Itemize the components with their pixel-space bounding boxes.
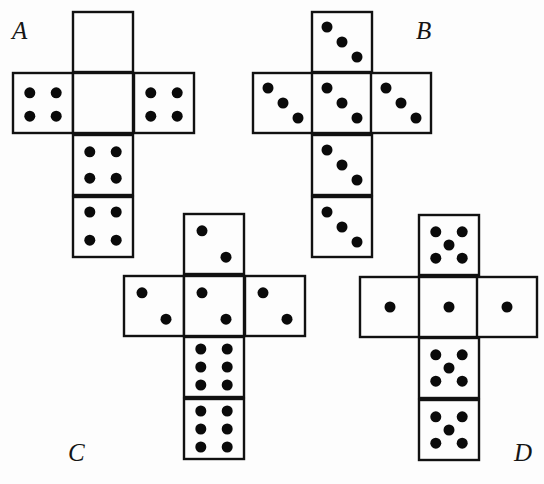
pip-dot xyxy=(258,287,269,298)
net-label-c: C xyxy=(68,440,85,465)
pip-dot xyxy=(51,87,62,98)
pip-dot xyxy=(444,363,455,374)
die-face-right xyxy=(477,277,537,337)
cube-net-b xyxy=(253,12,431,257)
pip-dot xyxy=(282,314,293,325)
pip-dot xyxy=(137,287,148,298)
pip-dot xyxy=(197,287,208,298)
pip-dot xyxy=(111,207,122,218)
die-face-bottom2 xyxy=(73,197,133,257)
pip-dot xyxy=(457,226,468,237)
pip-dot xyxy=(444,240,455,251)
pip-dot xyxy=(195,424,206,435)
pip-dot xyxy=(84,235,95,246)
pip-dot xyxy=(430,376,441,387)
pip-dot xyxy=(24,111,35,122)
pip-dot xyxy=(84,146,95,157)
pip-dot xyxy=(444,425,455,436)
pip-dot xyxy=(278,98,289,109)
pip-dot xyxy=(222,344,233,355)
pip-dot xyxy=(221,252,232,263)
pip-dot xyxy=(322,145,333,156)
die-face-right xyxy=(245,276,305,336)
pip-dot xyxy=(195,406,206,417)
pip-dot xyxy=(172,87,183,98)
pip-dot xyxy=(430,349,441,360)
die-face-top xyxy=(312,12,372,72)
pip-dot xyxy=(430,253,441,264)
pip-dot xyxy=(145,87,156,98)
die-face-center xyxy=(184,276,244,336)
pip-dot xyxy=(322,207,333,218)
pip-dot xyxy=(221,314,232,325)
pip-dot xyxy=(430,438,441,449)
pip-dot xyxy=(293,113,304,124)
die-face-right xyxy=(134,73,194,133)
pip-dot xyxy=(337,160,348,171)
cube-nets-figure: A B C D xyxy=(0,0,544,484)
pip-dot xyxy=(352,175,363,186)
die-face-left xyxy=(253,73,313,133)
pip-dot xyxy=(457,253,468,264)
die-face-bottom1 xyxy=(312,135,372,195)
pip-dot xyxy=(444,302,455,313)
die-face-bottom2 xyxy=(419,400,479,460)
pip-dot xyxy=(263,83,274,94)
pip-dot xyxy=(337,37,348,48)
pip-dot xyxy=(222,442,233,453)
pip-dot xyxy=(111,146,122,157)
pip-dot xyxy=(352,237,363,248)
pip-dot xyxy=(172,111,183,122)
pip-dot xyxy=(195,442,206,453)
pip-dot xyxy=(457,438,468,449)
die-face-bottom1 xyxy=(73,135,133,195)
die-face-left xyxy=(360,277,420,337)
pip-dot xyxy=(24,87,35,98)
pip-dot xyxy=(385,302,396,313)
cube-net-c xyxy=(124,214,305,459)
pip-dot xyxy=(222,424,233,435)
pip-dot xyxy=(502,302,513,313)
net-label-d: D xyxy=(514,440,532,465)
pip-dot xyxy=(222,406,233,417)
cube-net-d xyxy=(360,215,537,460)
pip-dot xyxy=(457,411,468,422)
pip-dot xyxy=(195,344,206,355)
pip-dot xyxy=(322,83,333,94)
die-face-right xyxy=(371,73,431,133)
pip-dot xyxy=(195,380,206,391)
pip-dot xyxy=(457,349,468,360)
die-face-center xyxy=(419,277,479,337)
pip-dot xyxy=(337,98,348,109)
pip-dot xyxy=(352,113,363,124)
pip-dot xyxy=(84,207,95,218)
pip-dot xyxy=(430,411,441,422)
pip-dot xyxy=(161,314,172,325)
net-label-b: B xyxy=(416,18,431,43)
pip-dot xyxy=(457,376,468,387)
pip-dot xyxy=(145,111,156,122)
pip-dot xyxy=(195,362,206,373)
die-face-bottom2 xyxy=(312,197,372,257)
die-face-left xyxy=(124,276,184,336)
pip-dot xyxy=(51,111,62,122)
pip-dot xyxy=(381,83,392,94)
pip-dot xyxy=(430,226,441,237)
pip-dot xyxy=(322,22,333,33)
pip-dot xyxy=(352,52,363,63)
net-label-a: A xyxy=(12,18,27,43)
die-face-top xyxy=(419,215,479,275)
pip-dot xyxy=(222,362,233,373)
pip-dot xyxy=(111,173,122,184)
die-face-top xyxy=(184,214,244,274)
die-face-center xyxy=(73,73,133,133)
pip-dot xyxy=(396,98,407,109)
pip-dot xyxy=(197,225,208,236)
die-face-center xyxy=(312,73,372,133)
die-face-left xyxy=(13,73,73,133)
die-face-top xyxy=(73,12,133,72)
die-face-bottom1 xyxy=(184,337,244,397)
pip-dot xyxy=(111,235,122,246)
pip-dot xyxy=(337,222,348,233)
die-face-bottom2 xyxy=(184,399,244,459)
